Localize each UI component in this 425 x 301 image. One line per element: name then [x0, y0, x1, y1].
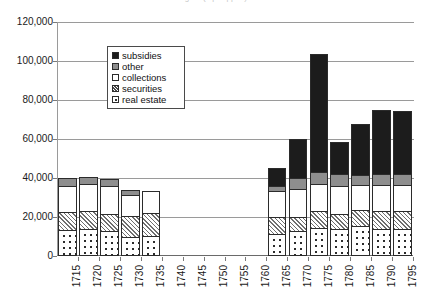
bar-segment-securities-1715[interactable]: [58, 212, 76, 231]
bar-segment-collections-1770[interactable]: [289, 189, 307, 218]
bar-segment-other-1775[interactable]: [310, 172, 328, 185]
bar-segment-collections-1730[interactable]: [121, 195, 139, 217]
legend-swatch-subsidies-icon: [112, 52, 119, 59]
bar-segment-realestate-1775[interactable]: [310, 228, 328, 256]
bar-1720[interactable]: [79, 178, 97, 256]
bar-segment-realestate-1795[interactable]: [393, 229, 411, 256]
bar-1730[interactable]: [121, 191, 139, 256]
bar-segment-realestate-1720[interactable]: [79, 229, 97, 256]
bar-1770[interactable]: [289, 140, 307, 256]
x-axis-tick-label-1740: 1740: [177, 265, 187, 287]
legend-swatch-collections-icon: [112, 74, 119, 81]
bar-segment-realestate-1730[interactable]: [121, 237, 139, 256]
bar-segment-securities-1790[interactable]: [372, 211, 390, 230]
bar-segment-securities-1730[interactable]: [121, 216, 139, 238]
clipped-title-strip: Figure (top clipped): [0, 0, 425, 9]
x-axis-tick-label-1735: 1735: [156, 265, 166, 287]
bar-segment-collections-1790[interactable]: [372, 185, 390, 212]
x-axis-tick: [120, 257, 121, 261]
x-axis-tick-label-1795: 1795: [408, 265, 418, 287]
x-axis-tick: [141, 257, 142, 261]
x-axis-tick: [78, 257, 79, 261]
x-axis-tick-label-1770: 1770: [303, 265, 313, 287]
bar-segment-collections-1785[interactable]: [351, 185, 369, 211]
bar-1780[interactable]: [330, 143, 348, 256]
bar-segment-subsidies-1775[interactable]: [310, 54, 328, 173]
bar-segment-subsidies-1765[interactable]: [268, 168, 286, 187]
bar-segment-other-1780[interactable]: [330, 174, 348, 187]
x-axis-tick-label-1715: 1715: [72, 265, 82, 287]
bar-segment-realestate-1735[interactable]: [142, 236, 160, 256]
bar-1735[interactable]: [142, 192, 160, 256]
bar-segment-collections-1715[interactable]: [58, 186, 76, 213]
bar-segment-collections-1725[interactable]: [100, 186, 118, 215]
bar-segment-subsidies-1795[interactable]: [393, 111, 411, 175]
bar-segment-collections-1775[interactable]: [310, 184, 328, 212]
bar-segment-other-1795[interactable]: [393, 174, 411, 186]
legend-item-other[interactable]: other: [112, 61, 180, 72]
bar-segment-collections-1780[interactable]: [330, 186, 348, 215]
x-axis-tick: [329, 257, 330, 261]
bar-segment-other-1720[interactable]: [79, 177, 97, 185]
bar-segment-other-1790[interactable]: [372, 174, 390, 186]
x-axis-tick-label-1720: 1720: [93, 265, 103, 287]
bar-segment-subsidies-1770[interactable]: [289, 139, 307, 179]
y-axis-tick-label: 80,000: [0, 95, 53, 105]
x-axis-tick: [245, 257, 246, 261]
bar-segment-collections-1765[interactable]: [268, 191, 286, 218]
y-axis-tick-label: 20,000: [0, 212, 53, 222]
bar-segment-subsidies-1785[interactable]: [351, 124, 369, 176]
bar-segment-realestate-1765[interactable]: [268, 234, 286, 256]
bar-1725[interactable]: [100, 180, 118, 256]
legend-item-realestate[interactable]: real estate: [112, 94, 180, 105]
bar-segment-realestate-1715[interactable]: [58, 230, 76, 256]
bar-1765[interactable]: [268, 169, 286, 256]
bar-segment-other-1785[interactable]: [351, 175, 369, 186]
legend-item-securities[interactable]: securities: [112, 83, 180, 94]
x-axis-tick-label-1745: 1745: [198, 265, 208, 287]
bar-segment-securities-1775[interactable]: [310, 211, 328, 229]
bar-segment-realestate-1770[interactable]: [289, 231, 307, 256]
bar-segment-securities-1720[interactable]: [79, 211, 97, 230]
bar-segment-collections-1795[interactable]: [393, 185, 411, 212]
x-axis-tick: [183, 257, 184, 261]
bar-segment-collections-1735[interactable]: [142, 191, 160, 214]
page-title: Figure (top clipped): [0, 0, 425, 2]
bar-1795[interactable]: [393, 112, 411, 256]
bar-segment-subsidies-1790[interactable]: [372, 110, 390, 175]
legend-item-collections[interactable]: collections: [112, 72, 180, 83]
bar-segment-collections-1720[interactable]: [79, 184, 97, 212]
bar-segment-realestate-1725[interactable]: [100, 231, 118, 256]
bar-1785[interactable]: [351, 125, 369, 256]
y-axis-tick-label: 40,000: [0, 173, 53, 183]
stacked-bar-chart: Figure (top clipped) 020,00040,00060,000…: [0, 0, 425, 301]
x-axis-tick-label-1765: 1765: [282, 265, 292, 287]
x-axis-tick-label-1755: 1755: [240, 265, 250, 287]
bar-segment-securities-1735[interactable]: [142, 213, 160, 237]
bar-1790[interactable]: [372, 111, 390, 256]
bar-1715[interactable]: [58, 179, 76, 256]
bar-segment-securities-1780[interactable]: [330, 214, 348, 230]
bar-segment-other-1715[interactable]: [58, 178, 76, 187]
bar-segment-securities-1765[interactable]: [268, 217, 286, 235]
bar-segment-realestate-1790[interactable]: [372, 229, 390, 256]
legend-swatch-other-icon: [112, 63, 119, 70]
legend-label: subsidies: [122, 51, 162, 61]
bar-segment-securities-1785[interactable]: [351, 210, 369, 227]
x-axis-tick-label-1790: 1790: [387, 265, 397, 287]
bar-segment-other-1770[interactable]: [289, 178, 307, 190]
x-axis-tick: [413, 257, 414, 261]
bar-segment-securities-1725[interactable]: [100, 214, 118, 232]
bar-segment-realestate-1785[interactable]: [351, 226, 369, 256]
bar-segment-other-1725[interactable]: [100, 179, 118, 187]
y-axis-tick-label: 0: [0, 251, 53, 261]
bar-segment-subsidies-1780[interactable]: [330, 142, 348, 175]
bar-segment-securities-1770[interactable]: [289, 217, 307, 232]
legend-swatch-realestate-icon: [112, 96, 119, 103]
bar-segment-other-1730[interactable]: [121, 190, 139, 196]
bar-segment-securities-1795[interactable]: [393, 211, 411, 230]
legend-item-subsidies[interactable]: subsidies: [112, 50, 180, 61]
bar-segment-realestate-1780[interactable]: [330, 229, 348, 256]
x-axis-tick: [162, 257, 163, 261]
bar-1775[interactable]: [310, 55, 328, 256]
